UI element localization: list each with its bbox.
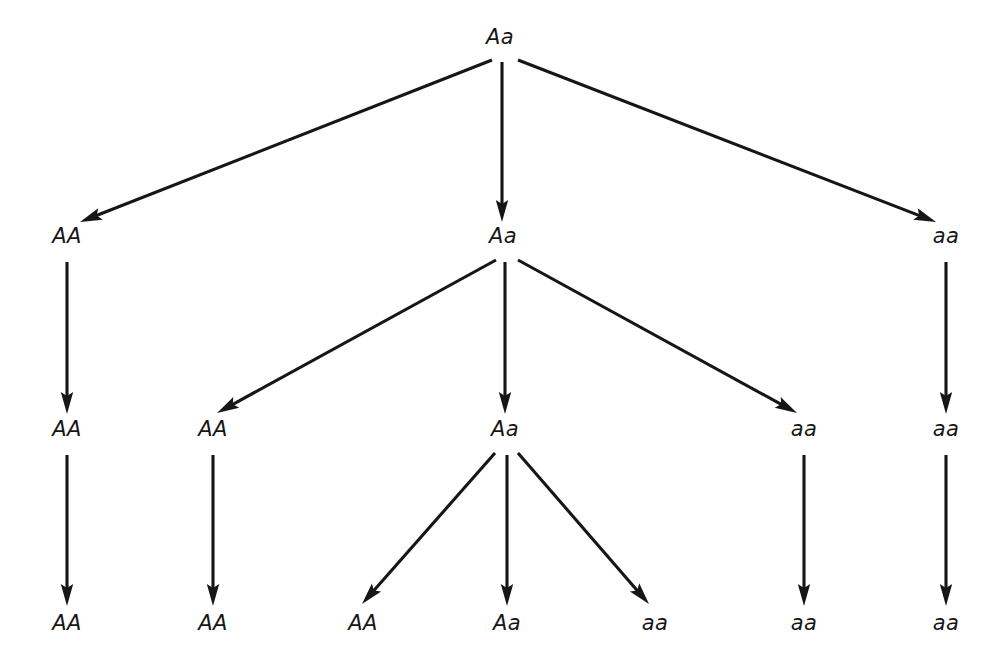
genotype-label-g3n1: AA	[50, 417, 82, 441]
genotype-label-g2n2: Aa	[487, 224, 517, 248]
pedigree-diagram: AaAAAaaaAAAAAaaaaaAAAAAAAaaaaaaa	[0, 0, 1007, 658]
genotype-label-g3n3: Aa	[489, 417, 519, 441]
genotype-label-g4n5: aa	[642, 611, 669, 635]
genotype-label-g1n1: Aa	[484, 25, 514, 49]
genotype-label-g3n4: aa	[791, 417, 818, 441]
genotype-label-g2n1: AA	[50, 224, 82, 248]
genotype-label-g4n7: aa	[933, 611, 960, 635]
genotype-label-g4n2: AA	[196, 611, 228, 635]
genotype-label-g4n3: AA	[346, 611, 378, 635]
genotype-label-g4n6: aa	[791, 611, 818, 635]
genotype-label-g4n4: Aa	[491, 611, 521, 635]
genotype-label-g4n1: AA	[50, 611, 82, 635]
pedigree-canvas: AaAAAaaaAAAAAaaaaaAAAAAAAaaaaaaa	[0, 0, 1007, 658]
genotype-label-g2n3: aa	[933, 224, 960, 248]
genotype-label-g3n5: aa	[933, 417, 960, 441]
genotype-label-g3n2: AA	[196, 417, 228, 441]
